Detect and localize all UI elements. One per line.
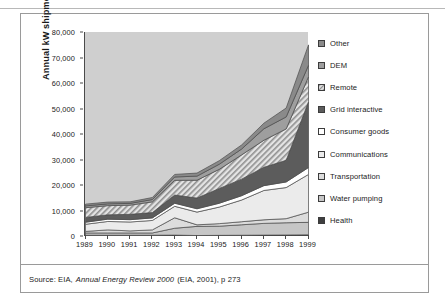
legend-label: Health (330, 216, 353, 225)
legend-label: DEM (330, 61, 347, 70)
legend-swatch-icon (318, 195, 325, 202)
legend-swatch-icon (318, 151, 325, 158)
x-tick-label: 1995 (210, 240, 227, 249)
y-tick-mark (80, 185, 83, 186)
x-tick-mark (241, 235, 242, 239)
x-tick-label: 1992 (143, 240, 160, 249)
y-tick-label: 40,000 (52, 130, 75, 139)
chart-region: Annual kW shipments 010,00020,00030,0004… (21, 14, 428, 264)
chart-frame: Annual kW shipments 010,00020,00030,0004… (20, 13, 429, 293)
x-tick-label: 1993 (165, 240, 182, 249)
legend-item-water-pumping[interactable]: Water pumping (318, 194, 383, 204)
y-tick-mark (80, 57, 83, 58)
legend-item-other[interactable]: Other (318, 38, 350, 48)
y-tick-label: 70,000 (52, 53, 75, 62)
legend-item-remote[interactable]: Remote (318, 82, 357, 92)
y-tick-mark (80, 32, 83, 33)
plot-area (84, 32, 308, 236)
x-tick-label: 1989 (76, 240, 93, 249)
chart-legend: OtherDEMRemoteGrid interactiveConsumer g… (318, 36, 426, 236)
y-tick-mark (80, 210, 83, 211)
y-tick-label: 10,000 (52, 206, 75, 215)
x-tick-label: 1997 (254, 240, 271, 249)
legend-label: Remote (330, 83, 357, 92)
x-tick-label: 1991 (121, 240, 138, 249)
x-axis-tick-labels: 1989199019911992199319941995199619971998… (84, 240, 308, 254)
x-tick-label: 1994 (188, 240, 205, 249)
legend-label: Consumer goods (330, 127, 389, 136)
y-tick-mark (80, 236, 83, 237)
x-tick-label: 1990 (98, 240, 115, 249)
y-tick-label: 0 (71, 232, 75, 241)
legend-label: Other (330, 39, 350, 48)
x-tick-mark (285, 235, 286, 239)
legend-item-communications[interactable]: Communications (318, 149, 388, 159)
x-tick-mark (129, 235, 130, 239)
x-tick-mark (151, 235, 152, 239)
legend-item-health[interactable]: Health (318, 216, 353, 226)
plot-wrap (84, 32, 308, 236)
legend-swatch-icon (318, 217, 325, 224)
legend-item-consumer-goods[interactable]: Consumer goods (318, 127, 389, 137)
x-tick-mark (218, 235, 219, 239)
y-tick-label: 80,000 (52, 28, 75, 37)
x-tick-mark (263, 235, 264, 239)
legend-item-grid-interactive[interactable]: Grid interactive (318, 105, 383, 115)
legend-item-transportation[interactable]: Transportation (318, 171, 380, 181)
legend-swatch-icon (318, 128, 325, 135)
x-tick-mark (107, 235, 108, 239)
stacked-area-svg (85, 32, 309, 236)
x-tick-mark (85, 235, 86, 239)
x-tick-label: 1999 (299, 240, 316, 249)
y-tick-mark (80, 159, 83, 160)
legend-label: Transportation (330, 172, 380, 181)
y-tick-mark (80, 134, 83, 135)
x-tick-mark (196, 235, 197, 239)
source-suffix: (EIA, 2001), p 273 (177, 275, 240, 284)
figure-container: Annual kW shipments 010,00020,00030,0004… (0, 0, 445, 304)
legend-label: Water pumping (330, 194, 383, 203)
y-tick-mark (80, 83, 83, 84)
legend-swatch-icon (318, 62, 325, 69)
y-tick-label: 50,000 (52, 104, 75, 113)
source-prefix: Source: EIA, (29, 275, 73, 284)
legend-swatch-icon (318, 106, 325, 113)
y-axis-tick-labels: 010,00020,00030,00040,00050,00060,00070,… (20, 32, 81, 236)
x-tick-mark (174, 235, 175, 239)
legend-label: Grid interactive (330, 105, 383, 114)
y-tick-label: 20,000 (52, 181, 75, 190)
y-tick-label: 30,000 (52, 155, 75, 164)
legend-label: Communications (330, 150, 388, 159)
legend-swatch-icon (318, 40, 325, 47)
legend-swatch-icon (318, 173, 325, 180)
x-tick-mark (308, 235, 309, 239)
y-tick-mark (80, 108, 83, 109)
top-edge-strip (0, 0, 445, 9)
x-tick-label: 1998 (277, 240, 294, 249)
y-tick-label: 60,000 (52, 79, 75, 88)
x-tick-label: 1996 (232, 240, 249, 249)
legend-swatch-icon (318, 84, 325, 91)
source-note: Source: EIA, Annual Energy Review 2000 (… (21, 265, 428, 293)
legend-item-dem[interactable]: DEM (318, 60, 347, 70)
source-title: Annual Energy Review 2000 (76, 275, 174, 284)
